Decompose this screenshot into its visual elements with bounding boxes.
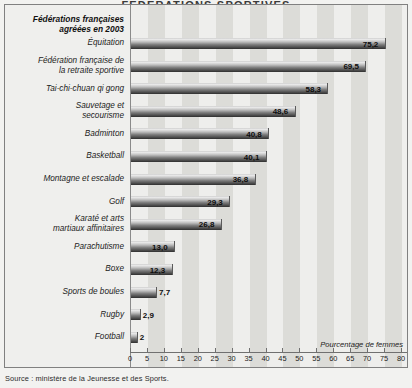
bar-value-label: 26,8 (199, 220, 215, 229)
category-label-line: martiaux affinitaires (53, 224, 124, 233)
category-label: Montagne et escalade (6, 174, 124, 183)
category-label-line: Karaté et arts (75, 214, 124, 223)
bar-value-label: 58,3 (305, 85, 321, 94)
category-label: Football (6, 332, 124, 341)
bar-value-label: 69,5 (343, 62, 359, 71)
category-label-line: Fédération française de (38, 56, 124, 65)
figure-root: FEDERATIONS SPORTIVES Fédérations frança… (0, 0, 412, 388)
bar (131, 309, 141, 320)
category-label-line: Boxe (105, 264, 124, 273)
bar (131, 106, 296, 117)
category-label-line: Parachutisme (74, 242, 124, 251)
category-label: Parachutisme (6, 242, 124, 251)
category-label-line: Football (95, 332, 124, 341)
bar-value-label: 13,0 (152, 243, 168, 252)
category-label-line: Basketball (86, 151, 124, 160)
x-axis-line (130, 352, 407, 353)
x-axis-tick-label: 80 (390, 354, 412, 363)
bar-series: 75,269,558,348,640,840,136,829,326,813,0… (131, 5, 407, 367)
source-note: Source : ministère de la Jeunesse et des… (5, 374, 169, 383)
category-label: Golf (6, 197, 124, 206)
x-axis-caption: Pourcentage de femmes (130, 340, 403, 349)
category-label-line: Golf (109, 197, 124, 206)
legend-header-line: agréées en 2003 (59, 24, 124, 34)
category-label-line: Rugby (100, 310, 124, 319)
category-label: Badminton (6, 129, 124, 138)
category-label: Sauvetage etsecourisme (6, 101, 124, 120)
bar-value-label: 75,2 (363, 40, 379, 49)
category-label: Karaté et artsmartiaux affinitaires (6, 214, 124, 233)
bar-value-label: 36,8 (233, 175, 249, 184)
category-label-line: Équitation (88, 38, 124, 47)
category-label: Basketball (6, 151, 124, 160)
bar (131, 61, 366, 72)
chart-frame: Fédérations françaisesagréées en 2003 Éq… (4, 4, 408, 368)
category-label-line: la retraite sportive (59, 66, 124, 75)
bar-value-label: 12,3 (150, 266, 166, 275)
legend-header: Fédérations françaisesagréées en 2003 (6, 14, 124, 34)
bar (131, 287, 157, 298)
category-label: Rugby (6, 310, 124, 319)
bar-value-label: 40,1 (244, 153, 260, 162)
category-label-line: secourisme (82, 111, 124, 120)
category-label: Équitation (6, 38, 124, 47)
bar-value-label: 29,3 (207, 198, 223, 207)
category-label: Tai-chi-chuan qi gong (6, 84, 124, 93)
category-label: Sports de boules (6, 287, 124, 296)
category-label-line: Sauvetage et (76, 101, 124, 110)
plot-area: 75,269,558,348,640,840,136,829,326,813,0… (131, 5, 407, 367)
category-label: Fédération française dela retraite sport… (6, 56, 124, 75)
category-label-column: Fédérations françaisesagréées en 2003 Éq… (5, 5, 131, 367)
legend-header-line: Fédérations françaises (33, 14, 124, 24)
bar-value-label: 7,7 (159, 288, 170, 297)
category-label: Boxe (6, 264, 124, 273)
bar (131, 83, 328, 94)
bar-value-label: 40,8 (246, 130, 262, 139)
category-label-line: Tai-chi-chuan qi gong (46, 84, 124, 93)
category-label-line: Badminton (85, 129, 124, 138)
bar-value-label: 2,9 (143, 311, 154, 320)
category-label-line: Sports de boules (63, 287, 124, 296)
bar (131, 38, 386, 49)
bar-value-label: 48,6 (273, 107, 289, 116)
category-label-line: Montagne et escalade (43, 174, 124, 183)
